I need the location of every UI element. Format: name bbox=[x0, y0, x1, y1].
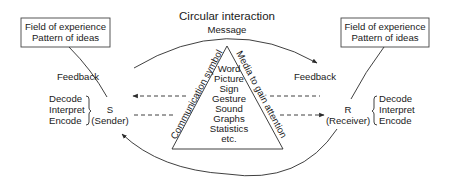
right-field-of-experience-box: Field of experience Pattern of ideas bbox=[341, 18, 429, 47]
right-box-line2: Pattern of ideas bbox=[351, 32, 418, 43]
message-label: Message bbox=[208, 24, 247, 35]
communication-diagram: Circular interaction Field of experience… bbox=[0, 0, 454, 182]
receiver-processes: Decode Interpret Encode bbox=[372, 93, 415, 126]
triangle-items: Word Picture Sign Gesture Sound Graphs S… bbox=[210, 63, 249, 144]
receiver-letter: R bbox=[345, 104, 352, 115]
sender-label: (Sender) bbox=[91, 115, 128, 126]
receiver-node: R (Receiver) bbox=[326, 104, 370, 126]
left-box-line2: Pattern of ideas bbox=[32, 32, 99, 43]
left-field-of-experience-box: Field of experience Pattern of ideas bbox=[21, 18, 110, 47]
sender-letter: S bbox=[107, 104, 113, 115]
receiver-decode: Decode bbox=[379, 93, 412, 104]
receiver-interpret: Interpret bbox=[379, 104, 415, 115]
diagram-title: Circular interaction bbox=[179, 10, 275, 22]
sender-interpret: Interpret bbox=[49, 104, 85, 115]
right-box-connector bbox=[351, 47, 384, 99]
sender-encode: Encode bbox=[49, 115, 82, 126]
sender-node: S (Sender) bbox=[91, 104, 128, 126]
sender-decode: Decode bbox=[49, 93, 82, 104]
receiver-brace bbox=[372, 96, 377, 125]
left-box-line1: Field of experience bbox=[25, 21, 106, 32]
right-box-line1: Field of experience bbox=[344, 21, 425, 32]
feedback-right-label: Feedback bbox=[294, 71, 336, 82]
feedback-left-label: Feedback bbox=[57, 71, 99, 82]
sender-processes: Decode Interpret Encode bbox=[49, 93, 91, 126]
receiver-encode: Encode bbox=[379, 115, 412, 126]
sender-brace bbox=[86, 96, 91, 125]
receiver-label: (Receiver) bbox=[326, 115, 370, 126]
item-etc: etc. bbox=[221, 133, 236, 144]
